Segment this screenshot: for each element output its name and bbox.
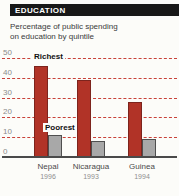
bar-chart: 01020304050 Richest Poorest Nepal1996Nic… xyxy=(0,48,179,196)
bar-guinea-poorest xyxy=(142,139,156,157)
bar-guinea-richest xyxy=(128,102,142,157)
y-tick-label-40: 40 xyxy=(3,68,12,77)
series-label-poorest: Poorest xyxy=(43,123,77,132)
chart-subtitle-line2: on education by quintile xyxy=(10,32,170,42)
chart-subtitle: Percentage of public spending on educati… xyxy=(10,22,170,42)
bar-nicaragua-poorest xyxy=(91,141,105,157)
y-tick-label-20: 20 xyxy=(3,107,12,116)
x-axis-line xyxy=(2,156,177,158)
chart-subtitle-line1: Percentage of public spending xyxy=(10,22,170,32)
bar-nepal-poorest xyxy=(48,135,62,157)
panel-title: EDUCATION xyxy=(10,6,66,15)
bar-nepal-richest xyxy=(34,66,48,157)
education-chart-panel: EDUCATION Percentage of public spending … xyxy=(0,0,179,196)
series-label-richest: Richest xyxy=(32,52,65,61)
x-label-country: Guinea xyxy=(110,162,174,172)
y-tick-label-30: 30 xyxy=(3,88,12,97)
y-tick-label-50: 50 xyxy=(3,48,12,57)
x-label-guinea: Guinea1994 xyxy=(110,162,174,181)
y-tick-label-0: 0 xyxy=(3,147,7,156)
x-label-year: 1994 xyxy=(110,172,174,181)
bar-nicaragua-richest xyxy=(77,80,91,157)
gridline-40 xyxy=(2,78,177,79)
gridline-50 xyxy=(2,58,177,59)
y-tick-label-10: 10 xyxy=(3,127,12,136)
panel-header-bar: EDUCATION xyxy=(10,4,179,16)
